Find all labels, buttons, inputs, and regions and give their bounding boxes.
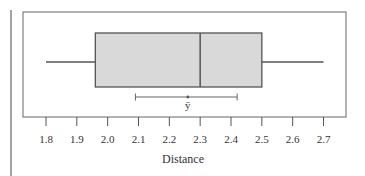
x-tick-label: 2.4 xyxy=(224,133,238,145)
x-axis: 1.81.92.02.12.22.32.42.52.62.7 xyxy=(39,117,331,145)
x-tick-label: 2.6 xyxy=(286,133,300,145)
x-tick-label: 2.1 xyxy=(132,133,146,145)
mean-confidence-interval: ȳ xyxy=(135,94,237,112)
x-tick-label: 2.0 xyxy=(101,133,115,145)
x-tick-label: 2.5 xyxy=(255,133,269,145)
mean-label: ȳ xyxy=(185,99,191,111)
mean-marker xyxy=(186,96,189,99)
x-axis-label: Distance xyxy=(162,152,204,166)
x-tick-label: 2.7 xyxy=(317,133,331,145)
x-tick-label: 1.8 xyxy=(39,133,53,145)
x-tick-label: 2.2 xyxy=(162,133,176,145)
x-tick-label: 2.3 xyxy=(193,133,207,145)
box-and-whiskers xyxy=(46,33,324,87)
x-tick-label: 1.9 xyxy=(70,133,84,145)
iqr-box xyxy=(95,33,262,87)
boxplot-chart: ȳ 1.81.92.02.12.22.32.42.52.62.7 Distanc… xyxy=(0,0,365,176)
